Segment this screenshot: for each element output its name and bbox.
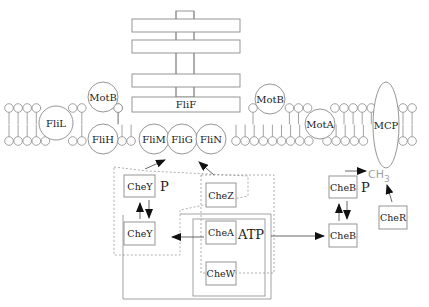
- flif-basal-body: [132, 11, 240, 112]
- chey-phosphate-label: P: [160, 179, 169, 194]
- flif-ring-1: [132, 19, 240, 32]
- flif-ring-3: [132, 74, 240, 87]
- chew-label: CheW: [207, 268, 236, 279]
- methyl-group-label: CH3: [368, 168, 390, 184]
- mcp-label: MCP: [374, 120, 399, 131]
- mota-label: MotA: [306, 119, 334, 130]
- cheb-label: CheB: [330, 230, 356, 241]
- motb-left-label: MotB: [89, 92, 117, 103]
- flil-label: FliL: [46, 118, 66, 129]
- chemotaxis-diagram: FliF FliL MotB FliH FliM FliG FliN MotB …: [0, 0, 429, 307]
- cheb-phosphate-label: P: [361, 180, 370, 195]
- chey-p-label: CheY: [127, 181, 153, 192]
- cher-label: CheR: [380, 212, 407, 223]
- arrow-cheyp-to-flim: [145, 160, 165, 169]
- chea-label: CheA: [208, 227, 234, 238]
- chez-label: CheZ: [208, 190, 234, 201]
- atp-label: ATP: [237, 227, 264, 242]
- chey-label: CheY: [127, 228, 153, 239]
- flin-label: FliN: [200, 134, 222, 145]
- cheb-p-label: CheB: [330, 182, 356, 193]
- flim-label: FliM: [142, 134, 166, 145]
- arrow-cher-to-methyl: [387, 185, 392, 202]
- flif-label: FliF: [176, 99, 196, 110]
- motb-right-label: MotB: [256, 94, 284, 105]
- flih-label: FliH: [92, 134, 114, 145]
- flif-ring-2: [132, 40, 240, 53]
- arrow-chez-to-switch: [199, 162, 214, 175]
- flig-label: FliG: [171, 134, 192, 145]
